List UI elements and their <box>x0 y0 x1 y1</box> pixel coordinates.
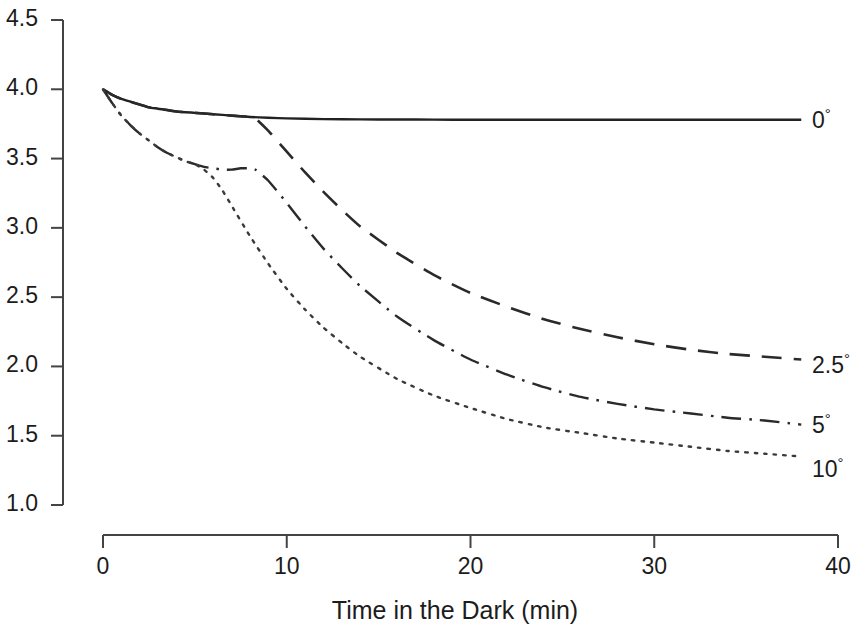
axis-lines <box>51 20 838 548</box>
x-tick-label: 30 <box>624 553 684 580</box>
series-label-10: 10° <box>812 456 844 483</box>
series-line-2-5 <box>103 89 801 359</box>
y-tick-label: 3.5 <box>0 144 38 171</box>
x-tick-label: 0 <box>73 553 133 580</box>
series-line-10 <box>103 89 801 456</box>
chart-container: 1.01.52.02.53.03.54.04.5 010203040 0°2.5… <box>0 0 866 639</box>
y-tick-label: 4.0 <box>0 74 38 101</box>
series-label-5: 5° <box>812 412 831 439</box>
y-tick-label: 1.5 <box>0 421 38 448</box>
series-line-0 <box>103 89 801 119</box>
x-tick-label: 20 <box>441 553 501 580</box>
degree-symbol: ° <box>825 105 831 122</box>
series-label-text: 10 <box>812 456 838 482</box>
x-tick-label: 40 <box>808 553 866 580</box>
y-tick-label: 2.5 <box>0 282 38 309</box>
series-label-0: 0° <box>812 107 831 134</box>
series-label-text: 0 <box>812 107 825 133</box>
y-tick-label: 4.5 <box>0 5 38 32</box>
x-tick-label: 10 <box>257 553 317 580</box>
x-axis-title: Time in the Dark (min) <box>155 596 755 625</box>
degree-symbol: ° <box>844 350 850 367</box>
series-label-2-5: 2.5° <box>812 352 850 379</box>
series-label-text: 2.5 <box>812 352 844 378</box>
y-tick-label: 2.0 <box>0 351 38 378</box>
y-tick-label: 1.0 <box>0 490 38 517</box>
degree-symbol: ° <box>838 454 844 471</box>
data-series-layer <box>103 89 801 456</box>
degree-symbol: ° <box>825 410 831 427</box>
series-label-text: 5 <box>812 412 825 438</box>
series-line-5 <box>103 89 801 424</box>
y-tick-label: 3.0 <box>0 213 38 240</box>
plot-area <box>0 0 866 639</box>
